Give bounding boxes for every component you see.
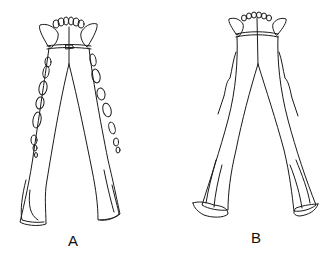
panel-label-b: B: [251, 229, 261, 246]
figure-canvas: [0, 0, 336, 267]
mandible-b-left-condyle: [193, 202, 228, 217]
mandible-a-right-cheek-teeth: [89, 54, 120, 153]
mandible-b: [193, 12, 318, 217]
mandible-b-right-ramus: [258, 36, 316, 211]
mandible-a: [20, 17, 120, 225]
mandible-a-incisors: [53, 17, 84, 28]
mandible-b-left-ramus: [202, 36, 258, 210]
mandible-b-incisors: [242, 12, 272, 21]
panel-label-a: A: [68, 232, 78, 249]
mandible-b-right-cheek-teeth: [279, 52, 298, 116]
mandible-b-left-cheek-teeth: [218, 52, 236, 114]
mandible-a-ligature: [66, 45, 74, 49]
mandible-a-left-cheek-teeth: [31, 57, 51, 158]
mandible-b-right-canine: [273, 18, 286, 35]
mandible-a-left-ramus: [20, 48, 69, 225]
